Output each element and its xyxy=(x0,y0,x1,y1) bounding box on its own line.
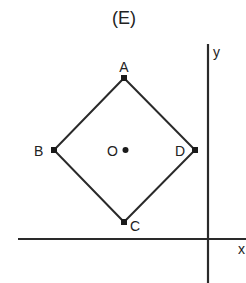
label-d: D xyxy=(175,143,185,159)
label-o: O xyxy=(107,143,118,159)
point-o xyxy=(123,147,129,153)
figure-title: (E) xyxy=(112,8,136,28)
label-b: B xyxy=(34,143,43,159)
y-axis-label: y xyxy=(213,44,220,60)
x-axis-label: x xyxy=(238,241,245,257)
label-a: A xyxy=(119,59,129,75)
point-b xyxy=(51,147,57,153)
diagram-canvas: (E) y x A B O D C xyxy=(0,0,246,283)
point-c xyxy=(121,219,127,225)
label-c: C xyxy=(130,218,140,234)
point-a xyxy=(121,75,127,81)
point-d xyxy=(192,147,198,153)
